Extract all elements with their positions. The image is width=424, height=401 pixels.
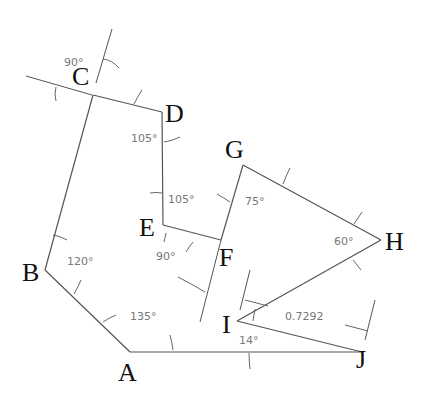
vertex-label-b: B [22, 258, 39, 287]
angle-arc-f-lower [178, 277, 205, 292]
edge-a-b [45, 270, 130, 352]
vertex-labels: C D G E F H B I A J [22, 62, 404, 387]
vertex-label-f: F [219, 243, 233, 272]
angle-label-e: 105° [168, 193, 195, 206]
edge-b-c [45, 95, 93, 270]
angle-arc-j-bottom [249, 353, 250, 369]
vertex-label-a: A [118, 358, 137, 387]
angle-arc-f [186, 242, 193, 252]
dimension-arrow-j [345, 325, 368, 331]
edge-h-i [237, 240, 381, 321]
extension-line-f-down [200, 240, 221, 322]
angle-label-i: 14° [239, 334, 259, 347]
polygon-edges [45, 95, 381, 352]
angle-arc-b [53, 235, 67, 240]
angle-arc-h-bottom [353, 260, 361, 270]
angle-arc-a [170, 335, 173, 350]
geometry-diagram: C D G E F H B I A J 90° 105° 105° 90° 75… [0, 0, 424, 401]
diagram-svg: C D G E F H B I A J 90° 105° 105° 90° 75… [0, 0, 424, 401]
edge-f-g [221, 165, 243, 240]
angle-label-d: 105° [131, 132, 158, 145]
angle-arc-e-top [150, 193, 162, 194]
angle-label-c: 90° [64, 56, 84, 69]
angle-arc-h-top [354, 212, 362, 224]
extension-line-i [240, 270, 250, 310]
edge-d-e [162, 112, 163, 225]
edge-e-f [163, 225, 221, 240]
angle-arc-e [164, 233, 166, 242]
angle-arc-gh [283, 168, 290, 184]
angle-arc-d [164, 137, 180, 142]
angle-label-f: 90° [156, 250, 176, 263]
angle-label-b: 120° [67, 255, 94, 268]
angle-arc-ab-1 [74, 280, 81, 294]
angle-arc-c-left [55, 87, 56, 101]
vertex-label-e: E [139, 213, 155, 242]
angle-arc-g [217, 194, 230, 202]
vertex-label-d: D [165, 99, 184, 128]
dimension-label-ij: 0.7292 [285, 310, 324, 323]
vertex-label-g: G [225, 135, 244, 164]
vertex-label-h: H [385, 227, 404, 256]
angle-arc-cd [134, 90, 142, 104]
extension-line-c-up [96, 29, 112, 83]
angle-arc-c-top [103, 59, 119, 68]
edge-c-d [93, 95, 162, 112]
angle-label-g: 75° [245, 195, 265, 208]
angle-label-a: 135° [130, 310, 157, 323]
dimension-arrow-i [245, 300, 268, 306]
vertex-label-i: I [222, 310, 231, 339]
angle-label-h: 60° [334, 235, 354, 248]
extension-line-j [365, 300, 375, 340]
angle-arc-ab-2 [103, 315, 116, 322]
vertex-label-j: J [356, 345, 366, 374]
